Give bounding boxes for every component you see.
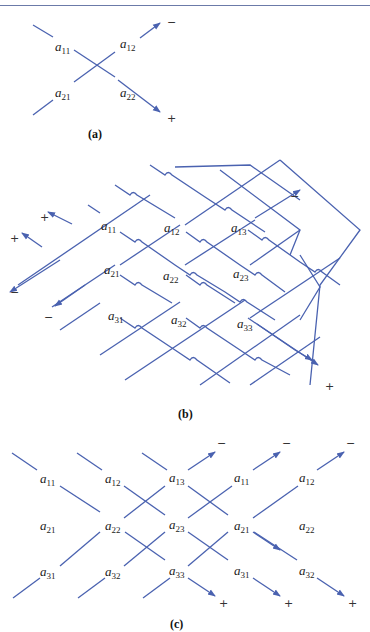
sign-minus: − [10, 286, 19, 299]
entry-a11: a11 [101, 218, 116, 235]
entry-a31-repeat: a31 [234, 563, 250, 580]
determinant-figure: a11 a12 a21 a22 − + (a) [0, 0, 370, 632]
entry-a11: a11 [40, 471, 55, 488]
entry-a12: a12 [105, 471, 121, 488]
entry-a32: a32 [171, 312, 187, 329]
entry-a13: a13 [231, 220, 247, 237]
sign-minus: − [44, 311, 53, 324]
sign-plus: + [284, 597, 293, 610]
sign-plus: + [40, 211, 49, 224]
entry-a12: a12 [164, 220, 180, 237]
sign-minus: − [167, 16, 176, 29]
sign-minus: − [290, 190, 299, 203]
caption-a: (a) [88, 127, 102, 141]
panel-c: a11 a12 a13 a11 a12 a21 a22 a23 a21 a22 … [12, 437, 357, 631]
sign-plus: + [10, 232, 19, 245]
entry-a23: a23 [169, 517, 185, 534]
entry-a12-repeat: a12 [299, 470, 315, 487]
sign-plus: + [325, 380, 334, 393]
entry-a22: a22 [163, 268, 179, 285]
caption-c: (c) [170, 617, 183, 631]
panel-a: a11 a12 a21 a22 − + (a) [33, 16, 176, 141]
entry-a21-repeat: a21 [234, 518, 250, 535]
sign-minus: − [217, 437, 226, 450]
entry-a33: a33 [169, 563, 185, 580]
entry-a32: a32 [105, 564, 121, 581]
entry-a33: a33 [237, 316, 253, 333]
entry-a23: a23 [233, 266, 249, 283]
entry-a21: a21 [40, 518, 56, 535]
entry-a32-repeat: a32 [299, 563, 315, 580]
entry-a22: a22 [105, 518, 121, 535]
sign-minus: − [346, 437, 355, 450]
entry-a22-repeat: a22 [299, 518, 315, 535]
caption-b: (b) [178, 407, 193, 421]
entry-a31: a31 [108, 308, 124, 325]
entry-a11-repeat: a11 [234, 470, 249, 487]
entry-a13: a13 [169, 470, 185, 487]
sign-plus: + [219, 597, 228, 610]
entry-a21: a21 [55, 85, 71, 102]
entry-a21: a21 [104, 262, 120, 279]
entry-a31: a31 [40, 564, 56, 581]
sign-plus: + [167, 112, 176, 125]
sign-minus: − [282, 437, 291, 450]
entry-a11: a11 [55, 39, 70, 56]
entry-a12: a12 [120, 36, 136, 53]
sign-plus: + [348, 597, 357, 610]
panel-b: a11 a12 a13 a21 a22 a23 a31 a32 a33 + + … [10, 160, 360, 421]
